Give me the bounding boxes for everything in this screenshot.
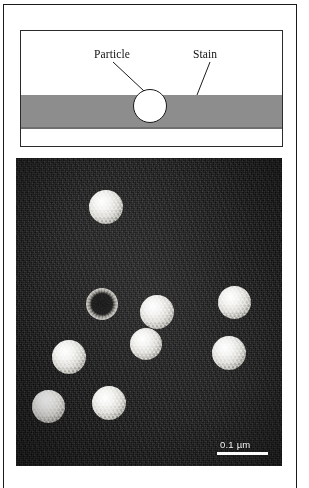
schematic-panel: Particle Stain [20, 30, 283, 147]
figure-border-right [296, 4, 297, 488]
scale-bar-label: 0.1 µm [220, 439, 250, 450]
particle-leader-line [113, 62, 145, 92]
particle-label: Particle [94, 48, 130, 60]
electron-micrograph-panel: 0.1 µm [16, 158, 282, 466]
figure-container: Particle Stain 0.1 µm [0, 0, 309, 488]
figure-border-left [3, 4, 4, 488]
stain-leader-line [197, 62, 211, 96]
scale-bar [217, 452, 268, 455]
figure-border-top [3, 4, 297, 5]
stain-layer-edge [21, 127, 282, 129]
particle-shape [133, 89, 167, 123]
stain-label: Stain [193, 48, 217, 60]
micrograph-vignette [16, 158, 282, 466]
